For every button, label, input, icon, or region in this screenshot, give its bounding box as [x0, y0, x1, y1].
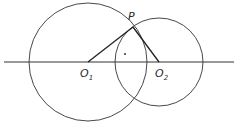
label-o2-sub: 2: [164, 74, 169, 82]
label-o1-sub: 1: [89, 74, 93, 82]
segment-o1-p: [88, 27, 133, 62]
geometry-diagram: P O1 O2: [0, 0, 237, 122]
label-o1: O1: [80, 67, 93, 82]
segment-p-o2: [133, 27, 159, 62]
label-o2: O2: [155, 67, 169, 82]
label-p: P: [128, 10, 135, 23]
label-o1-main: O: [80, 67, 89, 80]
label-o2-main: O: [155, 67, 164, 80]
center-dot: [124, 53, 126, 55]
